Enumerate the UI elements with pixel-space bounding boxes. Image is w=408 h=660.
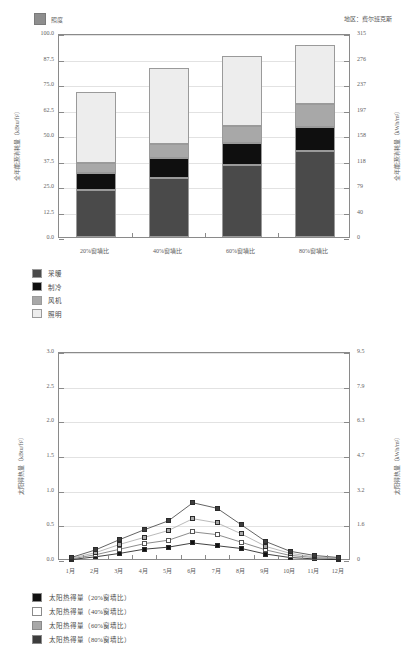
x-axis-tick <box>132 233 133 237</box>
legend-label-heating: 采暖 <box>48 268 62 278</box>
bar-segment-制冷[interactable] <box>295 127 335 151</box>
y-tick-label-right: 1.6 <box>357 521 365 527</box>
legend-label-shg-20: 太阳热得量（20%窗墙比） <box>49 592 131 602</box>
x-axis-tick <box>156 555 157 559</box>
bar-segment-制冷[interactable] <box>149 158 189 177</box>
bar-segment-照明[interactable] <box>295 45 335 104</box>
data-point[interactable] <box>190 529 195 534</box>
stacked-bar[interactable] <box>295 35 335 237</box>
y-axis-title-right: 全年能源消耗量（kWh/m²） <box>392 85 401 205</box>
y-tick-label-right: 0 <box>357 234 360 240</box>
data-point[interactable] <box>166 518 171 523</box>
axis-tick <box>59 188 64 189</box>
x-axis-tick <box>229 555 230 559</box>
bar-segment-采暖[interactable] <box>149 178 189 237</box>
legend-item-shg-20: 太阳热得量（20%窗墙比） <box>32 592 131 602</box>
data-point[interactable] <box>288 549 293 554</box>
data-point[interactable] <box>190 500 195 505</box>
y-tick-label-left: 75.0 <box>22 81 54 87</box>
y-tick-label-left: 3.0 <box>24 348 54 354</box>
y-tick-label-left: 50.0 <box>22 132 54 138</box>
x-axis-tick <box>278 555 279 559</box>
data-point[interactable] <box>93 547 98 552</box>
x-axis-tick <box>132 555 133 559</box>
data-point[interactable] <box>142 541 147 546</box>
bar-segment-风机[interactable] <box>295 104 335 126</box>
data-point[interactable] <box>239 531 244 536</box>
legend-label-shg-80: 太阳热得量（80%窗墙比） <box>49 634 131 644</box>
data-point[interactable] <box>69 555 74 560</box>
data-point[interactable] <box>166 528 171 533</box>
data-point[interactable] <box>336 555 341 560</box>
legend-item-fans: 风机 <box>32 295 62 305</box>
data-point[interactable] <box>117 542 122 547</box>
data-point[interactable] <box>215 520 220 525</box>
x-month-label: 12月 <box>323 566 353 575</box>
y-tick-label-left: 2.5 <box>24 383 54 389</box>
y-tick-label-right: 6.3 <box>357 417 365 423</box>
bar-segment-风机[interactable] <box>76 163 116 173</box>
legend-item-cooling: 制冷 <box>32 282 62 292</box>
bar-segment-照明[interactable] <box>222 56 262 125</box>
legend-swatch-shg-20 <box>32 593 42 602</box>
y-tick-label-right: 315 <box>357 30 366 36</box>
data-point[interactable] <box>142 527 147 532</box>
data-point[interactable] <box>190 540 195 545</box>
y-tick-label-right: 3.2 <box>357 487 365 493</box>
x-axis-tick <box>327 555 328 559</box>
axis-tick <box>344 163 349 164</box>
data-point[interactable] <box>166 545 171 550</box>
stacked-bar[interactable] <box>222 35 262 237</box>
bar-segment-采暖[interactable] <box>76 190 116 237</box>
legend-label-shg-40: 太阳热得量（40%窗墙比） <box>49 606 131 616</box>
legend-label-illuminance: 照度 <box>51 15 63 24</box>
axis-tick <box>344 112 349 113</box>
data-point[interactable] <box>190 516 195 521</box>
legend-swatch-shg-60 <box>32 621 42 630</box>
x-axis-tick <box>205 233 206 237</box>
data-point[interactable] <box>142 535 147 540</box>
data-point[interactable] <box>215 506 220 511</box>
x-category-label: 60%窗墙比 <box>201 246 281 255</box>
y-tick-label-left: 12.5 <box>22 209 54 215</box>
data-point[interactable] <box>263 544 268 549</box>
legend-label-cooling: 制冷 <box>48 282 62 292</box>
y-tick-label-right: 79 <box>357 183 363 189</box>
bar-segment-制冷[interactable] <box>222 143 262 164</box>
bar-segment-风机[interactable] <box>149 144 189 158</box>
data-point[interactable] <box>239 540 244 545</box>
data-point[interactable] <box>142 547 147 552</box>
legend-swatch-heating <box>32 269 42 278</box>
x-category-label: 80%窗墙比 <box>274 246 354 255</box>
axis-tick <box>344 561 349 562</box>
bar-segment-风机[interactable] <box>222 126 262 143</box>
bar-segment-采暖[interactable] <box>222 165 262 237</box>
y-tick-label-left: 37.5 <box>22 158 54 164</box>
data-point[interactable] <box>215 543 220 548</box>
legend-label-shg-60: 太阳热得量（60%窗墙比） <box>49 620 131 630</box>
stacked-bar[interactable] <box>76 35 116 237</box>
data-point[interactable] <box>239 522 244 527</box>
y-tick-label-right: 4.7 <box>357 452 365 458</box>
legend-swatch-shg-40 <box>32 607 42 616</box>
bar-segment-制冷[interactable] <box>76 173 116 190</box>
line-3 <box>71 503 339 558</box>
data-point[interactable] <box>263 539 268 544</box>
bar-segment-采暖[interactable] <box>295 151 335 237</box>
data-point[interactable] <box>239 546 244 551</box>
y-tick-label-left: 0.5 <box>24 521 54 527</box>
data-point[interactable] <box>166 538 171 543</box>
data-point[interactable] <box>117 547 122 552</box>
bar-segment-照明[interactable] <box>76 92 116 162</box>
data-point[interactable] <box>312 553 317 558</box>
y-tick-label-left: 62.5 <box>22 107 54 113</box>
data-point[interactable] <box>117 537 122 542</box>
legend-item-lighting: 照明 <box>32 309 62 319</box>
y-tick-label-left: 0.0 <box>22 234 54 240</box>
legend-swatch-cooling <box>32 282 42 291</box>
data-point[interactable] <box>215 532 220 537</box>
y-tick-label-left: 2.0 <box>24 417 54 423</box>
legend-item-shg-40: 太阳热得量（40%窗墙比） <box>32 606 131 616</box>
stacked-bar[interactable] <box>149 35 189 237</box>
bar-segment-照明[interactable] <box>149 68 189 145</box>
